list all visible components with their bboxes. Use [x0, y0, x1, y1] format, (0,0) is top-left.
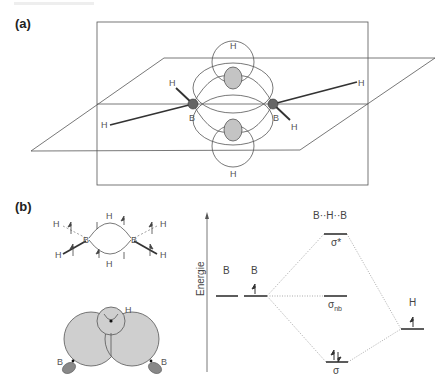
- figure-canvas: (a): [0, 0, 447, 388]
- bond-right-terminal-back: [273, 82, 357, 104]
- struct-h-left-bottom: H: [55, 250, 62, 260]
- fragment-b2-label: B: [251, 265, 258, 276]
- bridge-arc-bottom: [89, 240, 131, 254]
- boron-atom-left: [188, 99, 198, 109]
- label-sigma: σ: [333, 365, 340, 376]
- label-b-right: B: [273, 113, 279, 123]
- energy-levels: [216, 234, 424, 362]
- panel-b: (b) B: [15, 199, 424, 376]
- overlap-bottom: [224, 119, 242, 141]
- overlap-top: [224, 67, 242, 89]
- dashed-bond-right: [134, 226, 157, 238]
- energy-axis-arrow-icon: [205, 212, 209, 219]
- struct-b-left: B: [83, 235, 89, 245]
- panel-b-label: (b): [15, 199, 32, 214]
- orbital-overlap-sketch: H B B: [57, 305, 167, 376]
- label-b-left: B: [189, 113, 195, 123]
- boron-atom-right: [268, 99, 278, 109]
- overlap-b-left-label: B: [57, 357, 63, 367]
- label-h-bridge-bottom: H: [230, 169, 237, 179]
- overlap-b-right-label: B: [161, 357, 167, 367]
- header-bar: [14, 2, 94, 5]
- mo-diagram: Energie: [195, 210, 424, 376]
- struct-h-bridge-top: H: [106, 211, 113, 221]
- spin-arrows: [68, 216, 153, 259]
- panel-a-label: (a): [15, 16, 31, 31]
- panel-a: (a): [15, 16, 435, 185]
- figure: (a): [0, 0, 447, 388]
- label-sigma-nb: σnb: [328, 299, 342, 312]
- struct-h-bridge-bottom: H: [106, 259, 113, 269]
- fragment-h-label: H: [409, 297, 416, 308]
- correlation-lines: [267, 234, 401, 362]
- h-nucleus: [109, 319, 112, 322]
- overlap-h-label: H: [125, 305, 132, 315]
- struct-b-right: B: [131, 235, 137, 245]
- label-h-right-back: H: [358, 78, 365, 88]
- label-h-left-up: H: [169, 78, 176, 88]
- struct-h-right-bottom: H: [160, 250, 167, 260]
- label-h-left-back: H: [101, 120, 108, 130]
- bridge-arc-top: [89, 223, 131, 238]
- label-h-bridge-top: H: [230, 41, 237, 51]
- center-title: B··H··B: [313, 210, 347, 221]
- bond-left-terminal-back: [110, 104, 193, 125]
- label-sigma-star: σ*: [331, 237, 341, 248]
- energy-axis-label: Energie: [195, 261, 206, 296]
- wedge-bond-right: [134, 241, 157, 254]
- fragment-b1-label: B: [223, 265, 230, 276]
- label-h-right-down: H: [291, 122, 298, 132]
- diborane-structure: B B H H H H H H: [53, 211, 167, 269]
- struct-h-right-top: H: [160, 219, 167, 229]
- struct-h-left-top: H: [53, 219, 60, 229]
